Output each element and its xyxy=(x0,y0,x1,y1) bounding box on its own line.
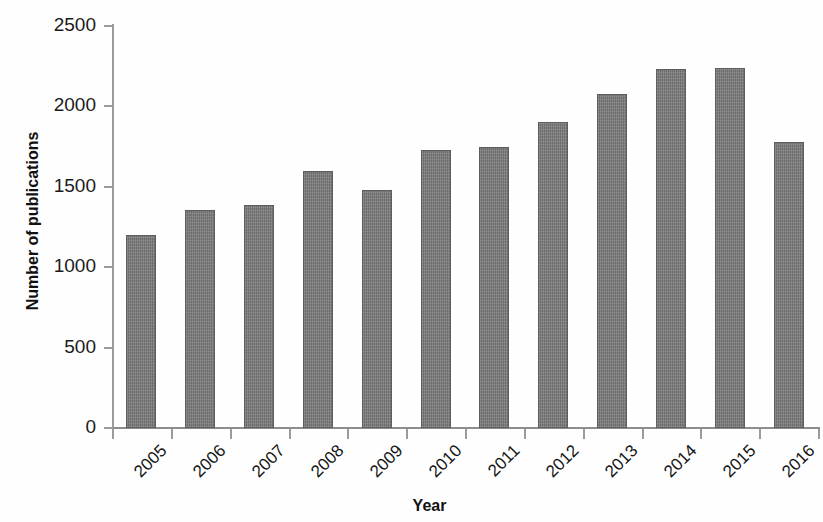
x-axis-tick-mark xyxy=(524,429,526,439)
bar-chart-figure: Number of publications 05001000150020002… xyxy=(0,0,823,522)
x-axis-tick-label: 2011 xyxy=(467,441,525,499)
x-axis-tick-mark xyxy=(230,429,232,439)
x-axis-tick-label: 2005 xyxy=(114,441,172,499)
y-axis-tick-mark xyxy=(104,25,113,27)
x-axis-tick-label: 2009 xyxy=(349,441,407,499)
x-axis-tick-label: 2013 xyxy=(584,441,642,499)
y-axis-tick-mark xyxy=(104,105,113,107)
x-axis-tick-mark xyxy=(583,429,585,439)
bar xyxy=(303,171,333,428)
x-axis-tick-mark xyxy=(406,429,408,439)
bar xyxy=(362,190,392,428)
x-axis-tick-label: 2012 xyxy=(525,441,583,499)
y-axis-tick-mark xyxy=(104,186,113,188)
y-axis-tick-label: 1500 xyxy=(34,176,96,195)
x-axis-tick-mark xyxy=(112,429,114,439)
bar xyxy=(715,68,745,428)
bar xyxy=(656,69,686,428)
x-axis-tick-mark xyxy=(818,429,820,439)
bar xyxy=(244,205,274,429)
x-axis-tick-mark xyxy=(700,429,702,439)
y-axis-tick-label: 0 xyxy=(34,417,96,436)
y-axis-tick-mark xyxy=(104,266,113,268)
bar xyxy=(479,147,509,428)
x-axis-tick-mark xyxy=(171,429,173,439)
x-axis-tick-label: 2007 xyxy=(231,441,289,499)
x-axis-tick-label: 2014 xyxy=(643,441,701,499)
x-axis-tick-mark xyxy=(465,429,467,439)
x-axis-tick-mark xyxy=(347,429,349,439)
y-axis-tick-label: 500 xyxy=(34,337,96,356)
x-axis-tick-label: 2008 xyxy=(290,441,348,499)
x-axis-tick-label: 2010 xyxy=(408,441,466,499)
y-axis-tick-mark xyxy=(104,347,113,349)
y-axis-tick-label-group: 05001000150020002500 xyxy=(34,0,96,522)
bar xyxy=(774,142,804,428)
y-axis-tick-label: 1000 xyxy=(34,256,96,275)
plot-area xyxy=(112,26,818,428)
bar xyxy=(597,94,627,428)
x-axis-tick-label: 2016 xyxy=(761,441,819,499)
x-axis-tick-mark xyxy=(642,429,644,439)
bar xyxy=(538,122,568,428)
x-axis-tick-mark xyxy=(759,429,761,439)
bar xyxy=(126,235,156,428)
x-axis-title-wrapper: Year xyxy=(0,497,823,515)
x-axis-tick-label: 2006 xyxy=(172,441,230,499)
bar xyxy=(421,150,451,428)
y-axis-tick-label: 2000 xyxy=(34,95,96,114)
x-axis-tick-label: 2015 xyxy=(702,441,760,499)
x-axis-tick-mark xyxy=(289,429,291,439)
y-axis-tick-label: 2500 xyxy=(34,15,96,34)
x-axis-title: Year xyxy=(413,497,447,515)
bar xyxy=(185,210,215,428)
